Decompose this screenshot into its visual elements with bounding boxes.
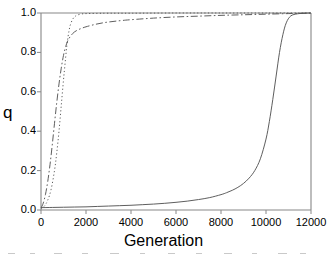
x-tick-label: 12000: [289, 217, 327, 228]
y-tick-label: 0.8: [8, 46, 36, 57]
series-line-dash-dot-fast-rise: [41, 13, 311, 208]
y-tick-label: 0.6: [8, 86, 36, 97]
page-edge-artifact: [0, 252, 327, 256]
x-axis-label: Generation: [0, 233, 327, 249]
y-tick-label: 0.0: [8, 204, 36, 215]
x-tick-label: 2000: [64, 217, 108, 228]
y-axis-label: q: [3, 104, 12, 121]
series-line-dotted-fast-rise: [41, 13, 311, 208]
x-tick-label: 0: [19, 217, 63, 228]
chart-figure: q Generation 0.00.20.40.60.81.0020004000…: [0, 0, 327, 260]
x-tick-label: 10000: [244, 217, 288, 228]
x-tick-label: 4000: [109, 217, 153, 228]
y-tick-label: 0.4: [8, 125, 36, 136]
y-tick-label: 0.2: [8, 165, 36, 176]
y-tick-label: 1.0: [8, 7, 36, 18]
x-tick-label: 8000: [199, 217, 243, 228]
series-line-solid-slow-sweep: [41, 13, 311, 208]
x-tick-label: 6000: [154, 217, 198, 228]
